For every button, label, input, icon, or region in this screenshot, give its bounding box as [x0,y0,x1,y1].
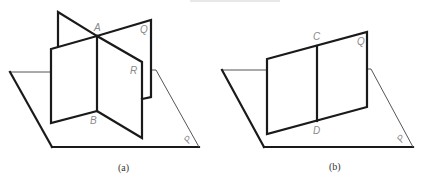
plane-p-left-edge [10,72,52,147]
plane-p-right-edge [156,70,199,147]
plane-r-front-panel [97,36,142,138]
label-a: A [93,22,101,33]
panel-a: A Q R B P (a) [10,12,199,174]
label-c: C [313,31,321,42]
label-b: B [90,115,97,126]
caption-b: (b) [329,161,341,173]
label-q: Q [140,24,148,35]
plane-q-front-panel [51,36,97,123]
panel-b: C Q D P (b) [222,31,413,173]
label-d: D [313,125,320,136]
cutoff-caption [190,0,280,2]
plane-p-left-edge [222,70,264,147]
label-p: P [394,132,407,144]
figure-canvas: A Q R B P (a) C Q D P (b) [0,0,421,183]
label-q: Q [357,36,365,47]
plane-p-right-edge [371,69,413,147]
caption-a: (a) [118,162,129,174]
label-r: R [130,65,137,76]
